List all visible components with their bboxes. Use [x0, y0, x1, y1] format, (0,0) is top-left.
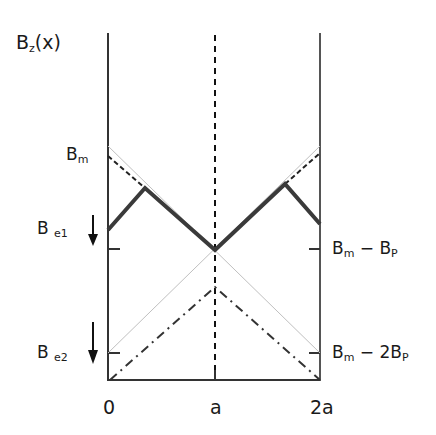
- arrow-be1-head: [88, 234, 98, 246]
- bm-dashed-right: [285, 153, 320, 184]
- label-bm-minus-bp: Bm − BP: [332, 240, 398, 259]
- x-tick-0: 0: [103, 398, 115, 417]
- x-tick-a: a: [210, 398, 222, 417]
- label-bm: Bm: [66, 146, 88, 165]
- field-profile-diagram: [0, 0, 436, 435]
- label-be2: B e2: [37, 344, 68, 363]
- y-axis-label: Bz(x): [16, 33, 61, 54]
- label-be1: B e1: [37, 220, 68, 239]
- label-bm-minus-2bp: Bm − 2BP: [332, 344, 409, 363]
- arrow-be2-head: [88, 350, 98, 364]
- x-tick-2a: 2a: [310, 398, 334, 417]
- bm-dashed-left: [108, 156, 145, 188]
